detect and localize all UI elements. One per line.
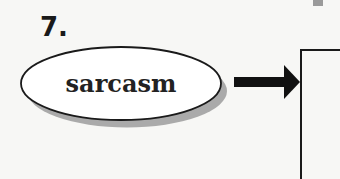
term-label: sarcasm [21, 47, 221, 120]
answer-box[interactable] [300, 49, 340, 179]
arrow-right-icon [234, 65, 300, 99]
